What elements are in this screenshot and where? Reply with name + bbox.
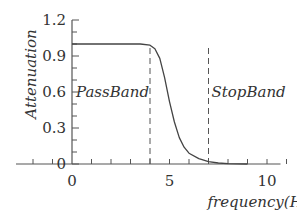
x-tick-label: 0 bbox=[67, 172, 77, 190]
band-lines bbox=[150, 45, 209, 164]
attenuation-curve bbox=[72, 44, 248, 164]
passband-label: PassBand bbox=[75, 83, 149, 101]
y-tick-label: 0.3 bbox=[42, 119, 66, 137]
x-tick-label: 5 bbox=[165, 172, 175, 190]
y-tick-label: 0.6 bbox=[42, 83, 66, 101]
x-axis-label: frequency(Hz) bbox=[207, 193, 297, 211]
y-tick-label: 0 bbox=[56, 155, 66, 173]
series bbox=[72, 44, 248, 164]
y-axis-label: Attenuation bbox=[22, 29, 40, 120]
stopband-label: StopBand bbox=[212, 83, 286, 101]
y-tick-label: 0.9 bbox=[42, 47, 66, 65]
chart: 051000.30.60.91.2 frequency(Hz) Attenuat… bbox=[0, 0, 297, 216]
y-tick-label: 1.2 bbox=[42, 11, 66, 29]
x-tick-label: 10 bbox=[257, 172, 276, 190]
